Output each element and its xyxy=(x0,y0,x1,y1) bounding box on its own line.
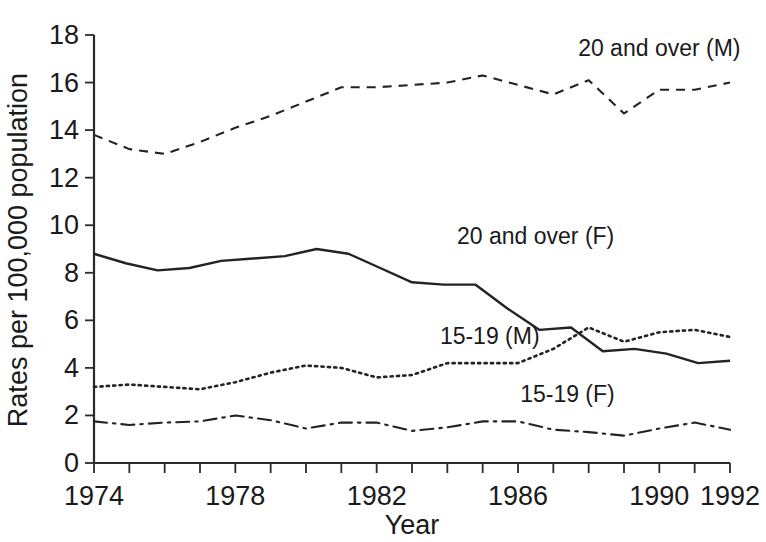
y-tick-label: 2 xyxy=(64,400,79,430)
x-tick-label: 1982 xyxy=(347,481,407,511)
y-tick-label: 14 xyxy=(49,115,79,145)
series-line-20-and-over-f xyxy=(94,249,730,363)
x-tick-label: 1990 xyxy=(629,481,689,511)
line-chart: 024681012141618 197419781982198619901992… xyxy=(0,0,766,542)
x-axis-title: Year xyxy=(385,510,440,540)
y-tick-label: 4 xyxy=(64,353,79,383)
y-tick-label: 8 xyxy=(64,258,79,288)
x-tick-label: 1986 xyxy=(488,481,548,511)
series-line-20-and-over-m xyxy=(94,75,730,153)
x-tick-label: 1974 xyxy=(64,481,124,511)
y-tick-label: 16 xyxy=(49,68,79,98)
series-label: 15-19 (M) xyxy=(440,323,540,349)
series-labels: 20 and over (M)20 and over (F)15-19 (M)1… xyxy=(440,35,741,407)
y-tick-label: 18 xyxy=(49,20,79,50)
y-tick-label: 10 xyxy=(49,210,79,240)
y-tick-label: 12 xyxy=(49,163,79,193)
x-tick-label: 1978 xyxy=(205,481,265,511)
x-axis: 197419781982198619901992 xyxy=(64,463,760,511)
series-label: 20 and over (M) xyxy=(578,35,740,61)
series-label: 20 and over (F) xyxy=(457,223,614,249)
plot-area: 024681012141618 197419781982198619901992… xyxy=(0,0,766,542)
x-tick-label: 1992 xyxy=(700,481,760,511)
series-lines xyxy=(94,75,730,435)
y-tick-label: 6 xyxy=(64,305,79,335)
series-line-15-19-m xyxy=(94,327,730,389)
y-tick-label: 0 xyxy=(64,448,79,478)
series-line-15-19-f xyxy=(94,415,730,435)
series-label: 15-19 (F) xyxy=(520,381,615,407)
y-axis-title: Rates per 100,000 population xyxy=(3,73,33,427)
y-axis: 024681012141618 xyxy=(49,20,94,478)
